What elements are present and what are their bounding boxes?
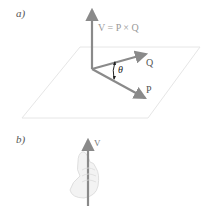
vector-v-b-label: V: [94, 138, 101, 148]
right-hand-rule-diagram: [0, 0, 204, 208]
